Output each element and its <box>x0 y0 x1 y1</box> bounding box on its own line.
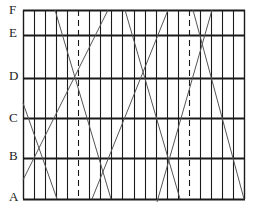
row-label-d: D <box>9 68 18 83</box>
vertical-grid-lines <box>24 10 245 199</box>
diagonal-line <box>157 10 212 202</box>
diagonal-line <box>125 10 180 199</box>
diagonal-line <box>23 103 57 199</box>
grid-diagram: F E D C B A <box>0 0 253 212</box>
row-label-a: A <box>9 189 19 204</box>
row-labels: F E D C B A <box>9 2 19 204</box>
row-label-b: B <box>9 148 18 163</box>
row-label-e: E <box>9 25 17 40</box>
row-label-c: C <box>9 110 18 125</box>
diagonal-line <box>55 10 111 199</box>
row-label-f: F <box>9 2 16 17</box>
